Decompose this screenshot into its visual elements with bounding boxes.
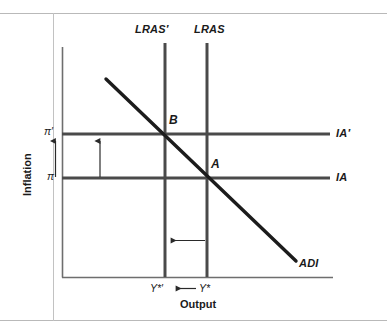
ia-label: IA	[336, 172, 347, 183]
ia-curves	[62, 134, 330, 178]
ia-prime-label: IA′	[336, 128, 350, 139]
adi-label: ADI	[299, 258, 319, 269]
diagram-canvas	[0, 0, 387, 331]
y-axis-title: Inflation	[22, 153, 33, 196]
arrow-group	[56, 141, 206, 289]
lras-label: LRAS	[194, 24, 225, 35]
lras-curves	[165, 43, 207, 277]
lras-prime-label: LRAS′	[135, 24, 169, 35]
x-tick-y-star-prime: Y*′	[150, 283, 163, 294]
point-a-label: A	[211, 158, 220, 170]
x-tick-y-star: Y*	[199, 283, 210, 294]
axis-lines	[62, 47, 333, 278]
point-b-label: B	[169, 114, 178, 126]
x-axis-title: Output	[180, 299, 216, 310]
y-tick-pi: π	[47, 171, 54, 182]
y-tick-pi-prime: π′	[44, 126, 53, 137]
adi-curve[interactable]	[106, 79, 296, 261]
figure-root: LRAS′ LRAS IA′ IA ADI B A π′ π Y*′ Y* In…	[0, 0, 387, 331]
